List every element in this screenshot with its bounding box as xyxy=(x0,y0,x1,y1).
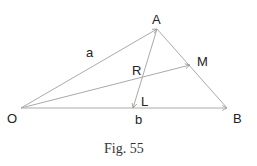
label-vector-a: a xyxy=(86,45,94,60)
label-point-B: B xyxy=(233,111,242,126)
label-point-L: L xyxy=(141,94,148,109)
label-vector-b: b xyxy=(135,112,142,127)
segment-AB xyxy=(157,29,227,108)
label-point-M: M xyxy=(197,54,208,69)
figure-caption: Fig. 55 xyxy=(104,141,144,156)
label-point-R: R xyxy=(132,63,141,78)
segment-OM xyxy=(21,65,190,108)
label-point-O: O xyxy=(7,111,17,126)
label-point-A: A xyxy=(152,12,161,27)
vector-diagram: A O B M R L a b Fig. 55 xyxy=(0,0,257,166)
